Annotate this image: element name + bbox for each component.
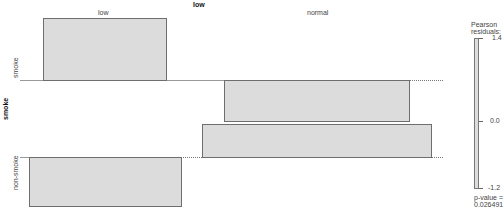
baseline-smoke-normal <box>409 80 443 81</box>
column-label-low: low <box>98 9 109 16</box>
legend-tick-label-min: -1.2 <box>488 184 500 191</box>
tile-nonsmoke-low <box>29 157 182 207</box>
legend-tick-label-mid: 0.0 <box>490 117 500 124</box>
legend-tick-min <box>479 188 483 189</box>
tile-smoke-low <box>43 18 167 81</box>
row-label-smoke: smoke <box>12 57 19 78</box>
tile-nonsmoke-normal <box>202 124 432 158</box>
baseline-nonsmoke-low <box>20 157 29 158</box>
legend-title-line1: Pearson <box>471 21 497 28</box>
baseline-nonsmoke-mid <box>181 157 202 158</box>
legend-tick-label-max: 1.4 <box>492 34 502 41</box>
row-label-non-smoke: non-smoke <box>12 155 19 190</box>
legend-color-bar <box>474 38 479 189</box>
y-variable-title: smoke <box>2 98 9 120</box>
column-label-normal: normal <box>307 9 328 16</box>
p-value: 0.026491 <box>474 201 503 208</box>
x-variable-title: low <box>193 1 205 8</box>
legend-tick-mid <box>479 121 483 122</box>
tile-smoke-normal <box>224 80 410 122</box>
legend-tick-max <box>479 38 483 39</box>
p-value-label: p-value = <box>474 194 503 201</box>
baseline-nonsmoke-normal <box>431 157 443 158</box>
